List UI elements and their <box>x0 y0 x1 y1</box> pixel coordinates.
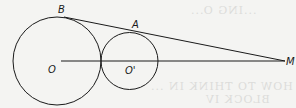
label-B: B <box>58 4 65 15</box>
label-O-prime: O' <box>125 65 136 76</box>
label-A: A <box>131 19 139 30</box>
geometry-diagram: B A O O' M <box>0 0 296 108</box>
label-M: M <box>286 56 295 67</box>
tangent-line-BM <box>64 17 285 61</box>
label-O: O <box>48 64 56 75</box>
